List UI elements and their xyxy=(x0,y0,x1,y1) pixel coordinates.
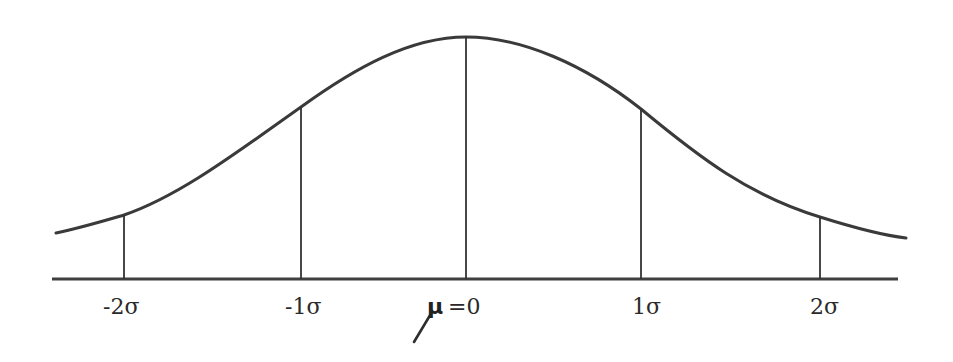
tick-label-mean-equals: =0 xyxy=(448,294,480,319)
tick-label-minus-one-sigma: -1σ xyxy=(285,294,321,319)
tick-label-two-sigma: 2σ xyxy=(810,294,839,319)
bell-curve xyxy=(56,37,906,238)
tick-label-one-sigma: 1σ xyxy=(632,294,661,319)
tick-label-minus-two-sigma: -2σ xyxy=(103,294,139,319)
tick-label-mu: μ xyxy=(427,294,443,319)
normal-distribution-diagram: -2σ -1σ μ =0 1σ 2σ xyxy=(0,0,953,362)
